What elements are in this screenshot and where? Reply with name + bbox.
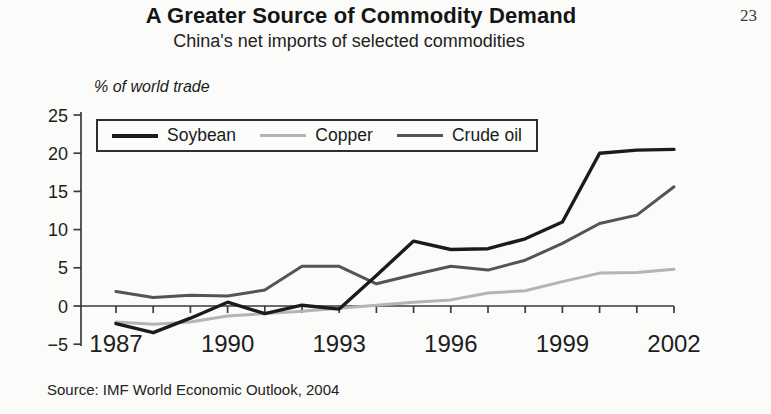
legend-line-sample-crude-oil bbox=[397, 134, 443, 137]
legend-item-soybean: Soybean bbox=[112, 125, 236, 146]
legend: Soybean Copper Crude oil bbox=[96, 119, 538, 152]
x-tick-label: 1990 bbox=[201, 330, 254, 357]
y-tick-label: 15 bbox=[48, 182, 68, 202]
legend-label-copper: Copper bbox=[315, 125, 372, 146]
y-tick-label: 25 bbox=[48, 106, 68, 126]
series-line-crude-oil bbox=[116, 187, 674, 298]
y-tick-label: 5 bbox=[58, 258, 68, 278]
legend-label-soybean: Soybean bbox=[167, 125, 236, 146]
y-tick-label: 20 bbox=[48, 144, 68, 164]
legend-line-sample-soybean bbox=[112, 134, 158, 138]
legend-item-crude-oil: Crude oil bbox=[397, 125, 522, 146]
x-tick-label: 1993 bbox=[313, 330, 366, 357]
y-tick-label: 0 bbox=[58, 297, 68, 317]
x-tick-label: 1996 bbox=[424, 330, 477, 357]
y-tick-label: 10 bbox=[48, 220, 68, 240]
figure-page: 23 A Greater Source of Commodity Demand … bbox=[0, 0, 771, 414]
line-chart: 2520151050−5198719901993199619992002 bbox=[0, 0, 771, 414]
x-tick-label: 1987 bbox=[89, 330, 142, 357]
legend-line-sample-copper bbox=[260, 134, 306, 137]
legend-label-crude-oil: Crude oil bbox=[452, 125, 522, 146]
x-tick-label: 2002 bbox=[647, 330, 700, 357]
x-tick-label: 1999 bbox=[536, 330, 589, 357]
y-tick-label: −5 bbox=[47, 335, 68, 355]
legend-item-copper: Copper bbox=[260, 125, 372, 146]
source-note: Source: IMF World Economic Outlook, 2004 bbox=[47, 381, 339, 398]
